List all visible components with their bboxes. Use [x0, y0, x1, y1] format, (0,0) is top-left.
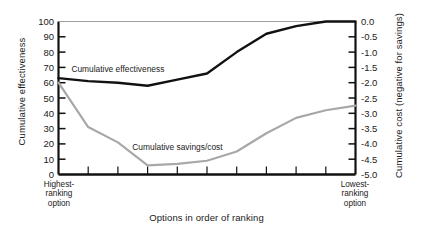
axis-ticks — [59, 37, 356, 175]
plot-frame — [59, 22, 356, 175]
series-line-cumulative-effectiveness — [59, 22, 356, 86]
plot-area — [0, 0, 435, 239]
series-line-cumulative-savings-cost — [59, 83, 356, 166]
chart-figure: Cumulative effectiveness Cumulative cost… — [0, 0, 435, 239]
data-series — [59, 22, 356, 166]
